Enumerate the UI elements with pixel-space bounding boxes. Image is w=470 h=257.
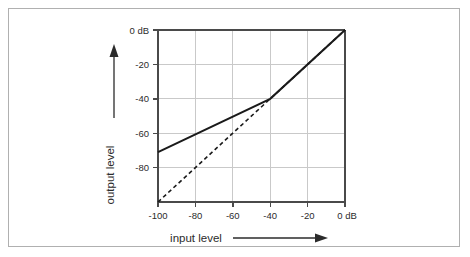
x-tick-label: -40 xyxy=(263,210,277,221)
x-tick-label: -80 xyxy=(189,210,203,221)
y-tick-label: -20 xyxy=(135,59,149,70)
chart-container: 0 dB -20 -40 -60 -80 -100 -80 -60 -40 -2… xyxy=(0,0,470,257)
y-tick-label: -60 xyxy=(135,128,149,139)
x-axis-title: input level xyxy=(170,232,222,244)
x-tick-label: -60 xyxy=(226,210,240,221)
x-tick-label: -20 xyxy=(301,210,315,221)
y-tick-label: 0 dB xyxy=(129,25,149,36)
transfer-curve-chart: 0 dB -20 -40 -60 -80 -100 -80 -60 -40 -2… xyxy=(0,0,470,257)
x-axis-title-group: input level xyxy=(170,232,328,244)
series-expander-transfer-curve xyxy=(158,30,345,152)
x-tick-label: -100 xyxy=(148,210,167,221)
arrow-up-icon xyxy=(110,44,119,57)
x-tick-label: 0 dB xyxy=(337,210,357,221)
y-tick-label: -40 xyxy=(135,93,149,104)
y-axis-title: output level xyxy=(104,146,116,205)
y-tick-label: -80 xyxy=(135,162,149,173)
y-axis-title-group: output level xyxy=(104,44,119,204)
arrow-right-icon xyxy=(315,234,328,243)
